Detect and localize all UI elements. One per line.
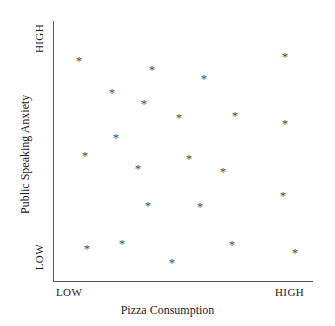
y-axis-title: Public Speaking Anxiety: [18, 95, 33, 214]
data-point: *: [282, 50, 289, 63]
data-point: *: [135, 161, 142, 174]
data-point: *: [169, 256, 176, 269]
x-axis-title: Pizza Consumption: [0, 303, 335, 318]
x-axis-tick-low: LOW: [56, 286, 82, 298]
x-axis-line: [53, 281, 313, 282]
scatter-chart: ********************** HIGH LOW LOW HIGH…: [0, 0, 335, 326]
data-point: *: [232, 109, 239, 122]
data-point: *: [149, 63, 156, 76]
plot-area: **********************: [53, 21, 313, 281]
y-axis-tick-low: LOW: [33, 244, 45, 270]
data-point: *: [109, 85, 116, 98]
data-point: *: [145, 199, 152, 212]
data-point: *: [113, 130, 120, 143]
data-point: *: [84, 241, 91, 254]
data-point: *: [220, 165, 227, 178]
data-point: *: [186, 152, 193, 165]
data-point: *: [76, 54, 83, 67]
data-point: *: [292, 245, 299, 258]
data-point: *: [197, 200, 204, 213]
data-point: *: [141, 96, 148, 109]
data-point: *: [229, 238, 236, 251]
x-axis-tick-high: HIGH: [275, 286, 304, 298]
data-point: *: [119, 237, 126, 250]
data-point: *: [176, 110, 183, 123]
y-axis-tick-high: HIGH: [33, 24, 45, 53]
data-point: *: [282, 116, 289, 129]
data-point: *: [82, 148, 89, 161]
data-point: *: [280, 188, 287, 201]
data-point: *: [201, 71, 208, 84]
